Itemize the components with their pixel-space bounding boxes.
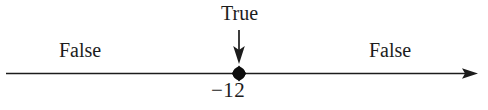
false-label-left: False (59, 40, 101, 60)
true-label: True (221, 3, 258, 23)
number-line-figure: True False False −12 (0, 0, 488, 110)
point-value-label: −12 (211, 80, 245, 101)
false-label-right: False (369, 40, 411, 60)
